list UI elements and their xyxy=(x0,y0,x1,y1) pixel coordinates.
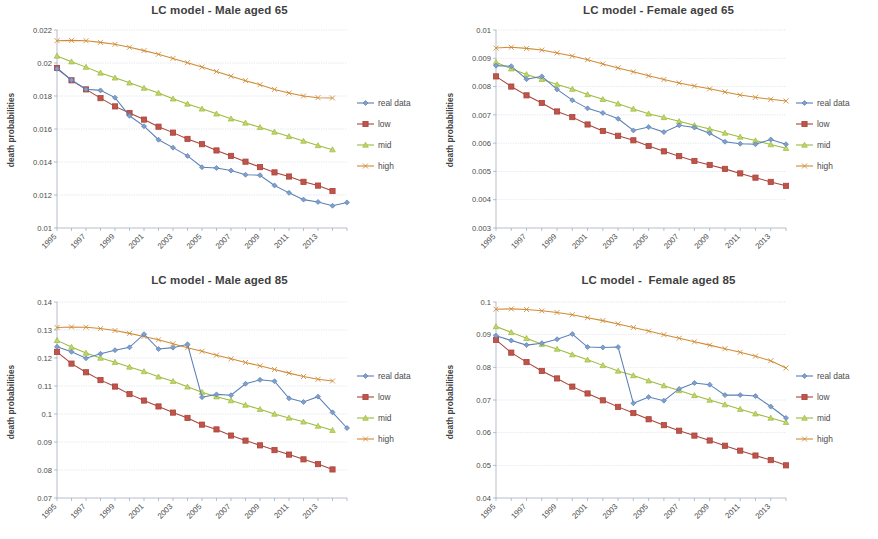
data-point-marker xyxy=(258,377,263,382)
legend-marker-icon xyxy=(802,121,807,126)
x-axis-tick-label: 2003 xyxy=(601,502,620,521)
x-axis-tick-label: 2005 xyxy=(631,232,650,251)
x-axis-tick-label: 2009 xyxy=(692,232,711,251)
data-point-marker xyxy=(330,203,335,208)
data-point-marker xyxy=(156,404,161,409)
x-axis-tick-label: 1997 xyxy=(509,502,528,521)
data-point-marker xyxy=(661,423,666,428)
data-point-marker xyxy=(707,438,712,443)
data-point-marker xyxy=(585,122,590,127)
legend-label: mid xyxy=(817,140,831,150)
x-axis-tick-label: 2005 xyxy=(631,502,650,521)
data-point-marker xyxy=(631,410,636,415)
data-point-marker xyxy=(722,166,727,171)
x-axis-tick-label: 2001 xyxy=(127,502,146,521)
x-axis-tick-label: 1997 xyxy=(69,502,88,521)
y-axis-tick-label: 0.07 xyxy=(37,494,52,503)
data-point-marker xyxy=(54,349,59,354)
x-axis-tick-label: 2011 xyxy=(272,232,290,250)
series-high xyxy=(494,306,789,370)
legend-label: low xyxy=(378,392,392,402)
data-point-marker xyxy=(156,124,161,129)
x-axis-tick-label: 2007 xyxy=(662,502,681,521)
legend-label: low xyxy=(378,119,392,129)
data-point-marker xyxy=(200,395,205,400)
chart-panel-bottom-right: LC model - Female aged 85 0.040.050.060.… xyxy=(439,270,878,539)
data-point-marker xyxy=(753,453,758,458)
x-axis-tick-label: 1995 xyxy=(40,502,59,521)
data-point-marker xyxy=(286,174,291,179)
x-axis-tick-label: 2011 xyxy=(272,502,290,520)
y-axis-tick-label: 0.11 xyxy=(38,382,52,391)
data-point-marker xyxy=(171,145,176,150)
data-point-marker xyxy=(228,433,233,438)
data-point-marker xyxy=(272,448,277,453)
legend-marker-icon xyxy=(802,394,807,399)
series-line xyxy=(496,340,786,465)
data-point-marker xyxy=(257,165,262,170)
data-point-marker xyxy=(301,399,306,404)
x-axis-tick-label: 2013 xyxy=(754,232,773,251)
y-axis-tick-label: 0.07 xyxy=(476,396,491,405)
legend-label: high xyxy=(378,434,394,444)
x-axis-tick-label: 1995 xyxy=(40,232,59,251)
legend-marker-icon xyxy=(363,101,368,106)
legend-label: low xyxy=(817,119,831,129)
series-line xyxy=(57,56,333,150)
y-axis-tick-label: 0.05 xyxy=(476,461,491,470)
chart-plot: 0.070.080.090.10.110.120.130.14death pro… xyxy=(0,270,439,539)
data-point-marker xyxy=(554,109,559,114)
y-axis-tick-label: 0.018 xyxy=(33,92,52,101)
data-point-marker xyxy=(330,188,335,193)
data-point-marker xyxy=(185,415,190,420)
chart-panel-top-left: LC model - Male aged 65 0.010.0120.0140.… xyxy=(0,0,439,270)
data-point-marker xyxy=(141,117,146,122)
data-point-marker xyxy=(646,395,651,400)
series-low xyxy=(493,337,788,468)
y-axis-tick-label: 0.08 xyxy=(476,363,491,372)
y-axis-tick-label: 0.007 xyxy=(472,111,491,120)
data-point-marker xyxy=(243,159,248,164)
data-point-marker xyxy=(646,125,651,130)
data-point-marker xyxy=(228,153,233,158)
data-point-marker xyxy=(141,398,146,403)
data-point-marker xyxy=(315,462,320,467)
data-point-marker xyxy=(69,344,75,349)
data-point-marker xyxy=(301,457,306,462)
y-axis-title: death probabilities xyxy=(6,92,16,167)
x-axis-tick-label: 2003 xyxy=(156,502,175,521)
data-point-marker xyxy=(616,345,621,350)
x-axis-tick-label: 1995 xyxy=(479,232,498,251)
y-axis-tick-label: 0.1 xyxy=(41,410,52,419)
legend-label: mid xyxy=(378,413,392,423)
y-axis-tick-label: 0.003 xyxy=(472,224,491,233)
y-axis-tick-label: 0.14 xyxy=(37,298,52,307)
y-axis-tick-label: 0.08 xyxy=(37,466,52,475)
series-real-data xyxy=(494,332,789,421)
data-point-marker xyxy=(738,141,743,146)
series-low xyxy=(54,65,335,193)
data-point-marker xyxy=(112,104,117,109)
legend-marker-icon xyxy=(802,374,807,379)
data-point-marker xyxy=(69,361,74,366)
data-point-marker xyxy=(783,463,788,468)
x-axis-tick-label: 2009 xyxy=(243,232,262,251)
data-point-marker xyxy=(272,170,277,175)
y-axis-tick-label: 0.006 xyxy=(472,139,491,148)
legend-label: real data xyxy=(378,98,411,108)
y-axis-tick-label: 0.09 xyxy=(476,330,491,339)
legend-marker-icon xyxy=(802,101,807,106)
data-point-marker xyxy=(214,427,219,432)
data-point-marker xyxy=(257,443,262,448)
data-point-marker xyxy=(509,84,514,89)
series-low xyxy=(54,349,335,472)
data-point-marker xyxy=(738,448,743,453)
data-point-marker xyxy=(631,401,636,406)
data-point-marker xyxy=(692,433,697,438)
y-axis-tick-label: 0.016 xyxy=(33,125,52,134)
data-point-marker xyxy=(199,142,204,147)
data-point-marker xyxy=(98,96,103,101)
data-point-marker xyxy=(768,179,773,184)
chart-plot: 0.0030.0040.0050.0060.0070.0080.0090.01d… xyxy=(439,0,878,270)
series-mid xyxy=(493,59,789,150)
